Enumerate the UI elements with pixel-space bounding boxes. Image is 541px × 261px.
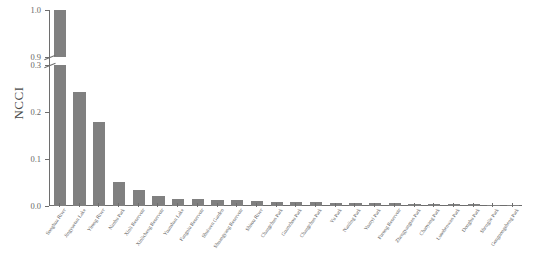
y-tick-label: 0.1 — [30, 154, 41, 164]
x-tick — [315, 203, 316, 207]
bar — [93, 122, 105, 206]
x-tick — [59, 203, 60, 207]
x-tick — [236, 203, 237, 207]
x-tick — [197, 203, 198, 207]
x-tick — [473, 203, 474, 207]
bar — [113, 182, 125, 206]
x-tick — [276, 203, 277, 207]
x-tick-label: Changchun Park — [284, 207, 323, 260]
x-tick — [512, 203, 513, 207]
x-axis-labels: Songhua RiverJingyuetan LakeYitong River… — [49, 207, 522, 261]
x-tick-label: Yuanyi Park — [343, 207, 382, 260]
x-tick — [256, 203, 257, 207]
x-tick — [295, 203, 296, 207]
x-tick-label: Zhengyangtan Park — [382, 207, 421, 260]
bar — [468, 204, 480, 206]
x-tick — [453, 203, 454, 207]
x-tick-label: Jingyuetan Lake — [47, 207, 86, 260]
y-tick: 0.1 — [45, 159, 49, 160]
x-tick — [374, 203, 375, 207]
x-tick-label: Yitong River — [67, 207, 106, 260]
x-tick-label: Nanling Park — [323, 207, 362, 260]
x-tick — [79, 203, 80, 207]
x-tick-label: Gongnongsheng Park — [481, 207, 520, 260]
x-tick — [118, 203, 119, 207]
bar — [408, 204, 420, 206]
x-tick-label: Luoshenwan Park — [422, 207, 461, 260]
x-tick-label: Shuiwen Garden — [185, 207, 224, 260]
y-tick: 1.0 — [45, 10, 49, 11]
x-tick-label: Donghu Park — [441, 207, 480, 260]
bar — [330, 203, 342, 206]
bar — [349, 203, 361, 206]
x-tick-label: Fangniu Reservoir — [165, 207, 204, 260]
x-tick — [433, 203, 434, 207]
bar — [152, 196, 164, 206]
x-tick — [177, 203, 178, 207]
x-tick — [157, 203, 158, 207]
x-tick — [335, 203, 336, 207]
plot-area: 1.00.9 0.30.20.10.0 — [49, 10, 522, 206]
bar — [172, 199, 184, 206]
y-axis-title: NCCI — [6, 0, 32, 205]
x-tick-label: Chaoyang Park — [402, 207, 441, 260]
x-tick-label: Furong Reservoir — [362, 207, 401, 260]
y-axis-title-text: NCCI — [11, 86, 27, 119]
x-tick-label: Songhua River — [27, 207, 66, 260]
x-tick — [414, 203, 415, 207]
bar-upper-segment — [54, 10, 66, 57]
x-tick-label: Guanzhou Park — [264, 207, 303, 260]
x-tick — [217, 203, 218, 207]
bar — [448, 204, 460, 206]
x-tick — [98, 203, 99, 207]
bar — [271, 202, 283, 206]
x-tick-label: Shitou River — [225, 207, 264, 260]
x-tick-label: Changchun Park — [244, 207, 283, 260]
x-tick-label: Shuangyang Reservoir — [205, 207, 244, 260]
x-tick — [354, 203, 355, 207]
x-tick-label: Yu Park — [303, 207, 342, 260]
y-tick-label: 0.3 — [30, 60, 41, 70]
bar — [389, 203, 401, 206]
x-tick-label: Yuanshan Lake — [146, 207, 185, 260]
x-tick — [492, 203, 493, 207]
upper-panel — [50, 10, 522, 57]
y-tick-label: 0.0 — [30, 201, 41, 211]
bar — [73, 92, 85, 206]
chart-figure: NCCI 1.00.9 0.30.20.10.0 Songhua RiverJi… — [0, 0, 541, 261]
y-tick-label: 0.2 — [30, 107, 41, 117]
bar — [54, 65, 66, 206]
x-tick-label: Xinlicheng Reservoir — [126, 207, 165, 260]
x-tick — [138, 203, 139, 207]
y-tick-label: 1.0 — [30, 5, 41, 15]
lower-panel — [50, 65, 522, 206]
bar — [290, 202, 302, 206]
x-tick — [394, 203, 395, 207]
x-tick-label: Xinli Reservoir — [106, 207, 145, 260]
bar — [231, 200, 243, 206]
x-tick-label: Shenglie Park — [461, 207, 500, 260]
y-tick: 0.2 — [45, 112, 49, 113]
bar — [507, 205, 519, 206]
bar — [211, 200, 223, 206]
x-tick-label: Nanhu Park — [87, 207, 126, 260]
axis-break-mark-top — [44, 55, 56, 61]
